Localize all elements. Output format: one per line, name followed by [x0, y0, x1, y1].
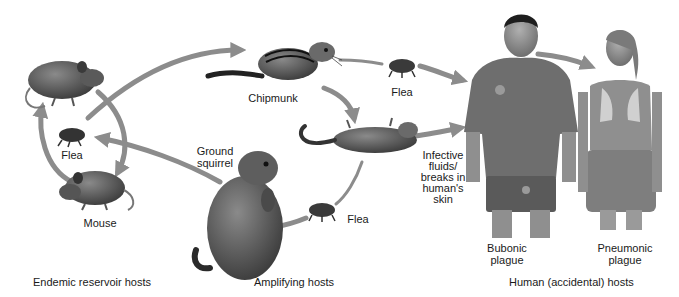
flea-bottom-label: Flea	[338, 213, 378, 225]
chipmunk-label: Chipmunk	[243, 92, 303, 104]
group-label-human-accidental: Human (accidental) hosts	[509, 276, 634, 288]
chipmunk-illustration	[208, 42, 342, 80]
bubonic-plague-label: Bubonic plague	[477, 242, 537, 266]
arrow-dead-to-man	[415, 128, 460, 136]
flea-reservoir-label: Flea	[52, 149, 92, 161]
flea-top-illustration	[389, 59, 415, 78]
flea-top-label: Flea	[382, 86, 422, 98]
flea-reservoir-illustration	[58, 128, 85, 147]
group-label-endemic-reservoir: Endemic reservoir hosts	[33, 276, 151, 288]
arrow-flea-to-man	[420, 66, 462, 80]
rat-illustration	[26, 61, 104, 108]
pneumonic-plague-label: Pneumonic plague	[590, 242, 660, 266]
mouse-illustration	[59, 171, 133, 210]
mouse-label: Mouse	[75, 217, 125, 229]
flea-bottom-illustration	[309, 203, 335, 222]
dead-rodent-illustration	[301, 118, 418, 153]
ground-squirrel-label: Ground squirrel	[190, 145, 240, 169]
ground-squirrel-illustration	[195, 151, 283, 280]
infective-fluids-label: Infective fluids/ breaks in human's skin	[412, 150, 474, 205]
plague-cycle-diagram: Flea Mouse Chipmunk Flea Ground squirrel…	[0, 0, 679, 297]
man-illustration	[464, 15, 578, 239]
woman-illustration	[578, 30, 662, 230]
group-label-amplifying: Amplifying hosts	[254, 276, 334, 288]
arrow-mouse-to-rat	[41, 108, 72, 182]
arrow-chipmunk-to-flea	[340, 60, 382, 64]
diagram-artwork	[0, 0, 679, 297]
arrow-dead-to-flea	[336, 162, 362, 204]
arrow-chipmunk-to-dead	[324, 88, 354, 118]
